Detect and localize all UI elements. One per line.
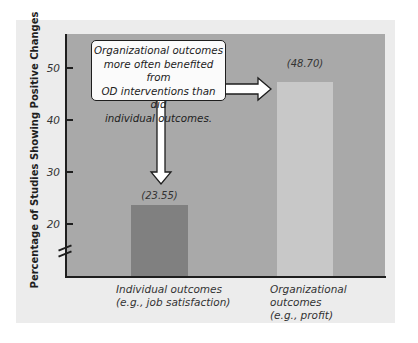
callout-line: OD interventions than did (92, 85, 225, 112)
callout-line: more often benefited from (92, 58, 225, 85)
right-arrow-icon (224, 78, 271, 100)
annotation-callout: Organizational outcomes more often benef… (91, 40, 226, 101)
callout-line: individual outcomes. (92, 112, 225, 126)
callout-line: Organizational outcomes (92, 44, 225, 58)
